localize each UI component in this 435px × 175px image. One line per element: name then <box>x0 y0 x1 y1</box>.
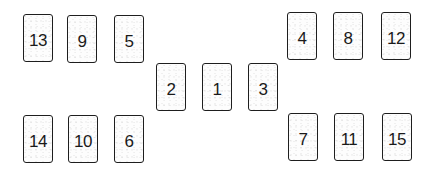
card-1: 1 <box>202 63 232 111</box>
card-15: 15 <box>382 113 412 161</box>
card-number: 4 <box>298 30 307 47</box>
card-number: 13 <box>29 32 47 49</box>
card-number: 6 <box>125 133 134 150</box>
card-4: 4 <box>287 12 317 60</box>
card-number: 7 <box>299 131 308 148</box>
card-number: 11 <box>341 131 358 148</box>
card-6: 6 <box>114 115 144 163</box>
card-9: 9 <box>67 15 97 63</box>
card-number: 9 <box>78 33 87 50</box>
card-number: 15 <box>388 131 406 148</box>
card-12: 12 <box>381 12 411 60</box>
card-3: 3 <box>248 63 278 111</box>
card-number: 10 <box>74 133 92 150</box>
card-11: 11 <box>334 113 364 161</box>
card-number: 12 <box>387 30 405 47</box>
card-2: 2 <box>156 63 186 111</box>
card-number: 2 <box>167 81 176 98</box>
card-14: 14 <box>23 115 53 163</box>
card-7: 7 <box>288 113 318 161</box>
card-13: 13 <box>23 14 53 62</box>
card-number: 8 <box>344 30 353 47</box>
card-8: 8 <box>333 12 363 60</box>
card-number: 14 <box>29 133 47 150</box>
card-spread: 13 9 5 2 1 3 4 8 12 14 10 6 7 11 15 <box>0 0 435 175</box>
card-10: 10 <box>68 115 98 163</box>
card-5: 5 <box>114 15 144 63</box>
card-number: 5 <box>125 33 134 50</box>
card-number: 3 <box>259 81 268 98</box>
card-number: 1 <box>213 81 222 98</box>
